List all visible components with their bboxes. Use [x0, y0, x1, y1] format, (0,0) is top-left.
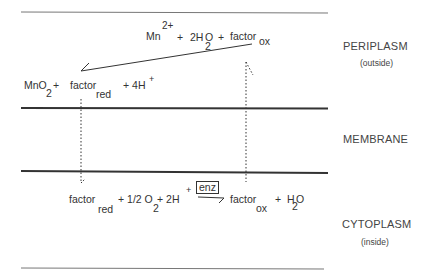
protons-charge: + — [149, 75, 154, 84]
factor-red-label: factor — [70, 80, 96, 91]
oxygen-label: + 1/2 O — [118, 194, 153, 205]
periplasm-sublabel: (outside) — [360, 58, 393, 68]
water-o: O — [205, 32, 213, 43]
factor-ox-label: factor — [230, 31, 256, 42]
plus-sign: + — [218, 32, 224, 43]
factor-red-label: factor — [69, 194, 95, 205]
plus-sign: + — [275, 194, 281, 205]
water-o: O — [296, 194, 304, 205]
mno2-label: MnO — [24, 80, 47, 91]
enzyme-box: enz — [196, 181, 219, 194]
water-h: 2H — [190, 32, 203, 43]
cytoplasm-reaction-arrow — [198, 197, 224, 198]
mno2-subscript: 2 — [46, 88, 52, 99]
membrane-label: MEMBRANE — [343, 133, 408, 145]
periplasm-reaction-arrow — [81, 44, 252, 71]
outer-boundary-line — [21, 12, 328, 13]
protons-label: + 4H — [123, 80, 145, 91]
mn-charge: 2+ — [162, 21, 173, 31]
mn-ion: Mn — [146, 31, 161, 42]
protons-label: + 2H — [157, 194, 179, 205]
factor-red-subscript: red — [96, 89, 111, 100]
plus-sign: + — [177, 32, 183, 43]
factor-red-subscript: red — [98, 204, 113, 215]
plus-sign: + — [53, 80, 59, 91]
factor-ox-subscript: ox — [259, 36, 270, 47]
factor-ox-transport-head — [246, 62, 253, 75]
membrane-outer-line — [21, 108, 328, 109]
factor-red-transport-head — [81, 179, 85, 183]
protons-charge: + — [186, 186, 191, 195]
factor-ox-subscript: ox — [256, 203, 267, 214]
inner-boundary-line — [21, 268, 324, 269]
cytoplasm-sublabel: (inside) — [361, 237, 389, 247]
cytoplasm-arrowhead — [219, 198, 224, 203]
cytoplasm-label: CYTOPLASM — [342, 218, 411, 230]
membrane-inner-line — [21, 171, 328, 173]
periplasm-label: PERIPLASM — [343, 40, 408, 52]
factor-ox-label: factor — [230, 194, 256, 205]
